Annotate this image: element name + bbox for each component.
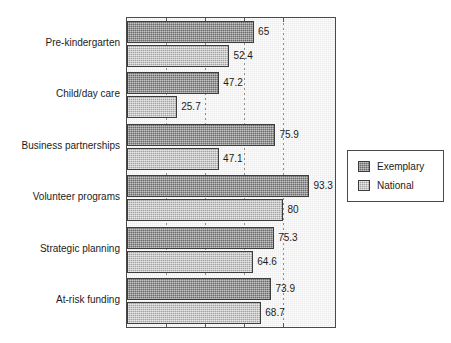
category-label-5: At-risk funding xyxy=(0,294,120,305)
bar-national-2 xyxy=(127,148,219,170)
value-label-exemplary-4: 75.3 xyxy=(278,227,297,249)
bar-chart: Pre-kindergartenChild/day careBusiness p… xyxy=(0,0,451,343)
bar-exemplary-2 xyxy=(127,124,275,146)
value-label-exemplary-3: 93.3 xyxy=(313,175,332,197)
tick-top-80 xyxy=(283,18,284,22)
bar-exemplary-3 xyxy=(127,175,309,197)
legend-swatch-national xyxy=(358,180,370,191)
bar-national-1 xyxy=(127,96,177,118)
bar-national-4 xyxy=(127,251,253,273)
bar-exemplary-4 xyxy=(127,227,274,249)
legend: Exemplary National xyxy=(347,150,444,202)
value-label-national-1: 25.7 xyxy=(181,96,200,118)
value-label-national-3: 80 xyxy=(287,199,298,221)
bar-national-5 xyxy=(127,302,261,324)
value-label-national-0: 52.4 xyxy=(233,45,252,67)
legend-item-exemplary: Exemplary xyxy=(358,161,424,172)
legend-label-national: National xyxy=(377,180,414,191)
value-label-exemplary-0: 65 xyxy=(258,21,269,43)
value-label-national-2: 47.1 xyxy=(223,148,242,170)
value-label-national-5: 68.7 xyxy=(265,302,284,324)
plot-area xyxy=(126,17,336,328)
category-label-4: Strategic planning xyxy=(0,243,120,254)
legend-swatch-exemplary xyxy=(358,161,370,172)
value-label-national-4: 64.6 xyxy=(257,251,276,273)
legend-label-exemplary: Exemplary xyxy=(377,161,424,172)
bar-exemplary-0 xyxy=(127,21,254,43)
bar-exemplary-1 xyxy=(127,72,219,94)
value-label-exemplary-2: 75.9 xyxy=(279,124,298,146)
category-label-3: Volunteer programs xyxy=(0,191,120,202)
category-label-1: Child/day care xyxy=(0,88,120,99)
category-label-0: Pre-kindergarten xyxy=(0,37,120,48)
bar-exemplary-5 xyxy=(127,278,271,300)
category-label-2: Business partnerships xyxy=(0,140,120,151)
bar-national-3 xyxy=(127,199,283,221)
legend-item-national: National xyxy=(358,180,414,191)
value-label-exemplary-5: 73.9 xyxy=(275,278,294,300)
bar-national-0 xyxy=(127,45,229,67)
value-label-exemplary-1: 47.2 xyxy=(223,72,242,94)
